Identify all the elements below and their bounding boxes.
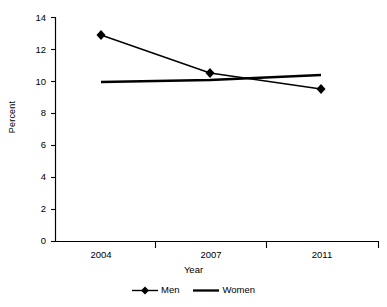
x-axis-title: Year	[0, 264, 387, 275]
y-tick-marks	[51, 18, 55, 242]
data-point-men-2004	[97, 30, 106, 40]
diamond-line-marker-icon	[132, 286, 158, 295]
data-point-men-2011	[317, 84, 326, 94]
x-tick-label-2007: 2007	[181, 250, 241, 260]
legend-item-women: Women	[193, 285, 255, 295]
chart-legend: Men Women	[0, 285, 387, 295]
plot-area	[0, 0, 387, 307]
x-tick-label-2004: 2004	[71, 250, 131, 260]
legend-item-men: Men	[132, 285, 179, 295]
legend-label-women: Women	[222, 285, 255, 295]
legend-label-men: Men	[161, 285, 179, 295]
line-chart: Percent 14 12 10 8 6 4 2 0	[0, 0, 387, 307]
plain-line-marker-icon	[193, 286, 219, 295]
data-point-men-2007	[206, 68, 215, 78]
x-tick-label-2011: 2011	[292, 250, 352, 260]
